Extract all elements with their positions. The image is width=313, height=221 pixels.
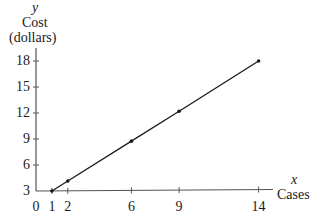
- y-tick-label: 18: [6, 54, 30, 68]
- data-point: [66, 179, 70, 183]
- y-tick-label: 15: [6, 80, 30, 94]
- y-tick-label: 9: [6, 132, 30, 146]
- y-tick-label: 6: [6, 158, 30, 172]
- x-axis: [36, 190, 273, 192]
- y-tick-label: 12: [6, 106, 30, 120]
- data-point: [50, 189, 54, 193]
- data-point: [257, 59, 261, 63]
- x-variable-label: x: [291, 173, 297, 187]
- y-axis-title-units: (dollars): [9, 31, 56, 45]
- data-point: [130, 139, 134, 143]
- x-axis-title: Cases: [277, 188, 310, 202]
- x-tick-label: 9: [169, 200, 189, 214]
- data-line: [52, 61, 259, 191]
- x-tick-label: 2: [58, 200, 78, 214]
- x-tick-label: 6: [121, 200, 141, 214]
- x-tick-label: 14: [249, 200, 269, 214]
- y-axis-title: Cost: [22, 16, 48, 30]
- y-tick-label: 3: [6, 184, 30, 198]
- y-variable-label: y: [32, 1, 38, 15]
- data-point: [177, 109, 181, 113]
